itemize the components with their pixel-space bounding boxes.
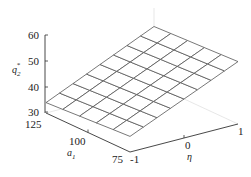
eta-axis-label: η [187, 151, 192, 162]
a1-axis-label: a1 [67, 147, 76, 161]
a1-tick-100: 100 [69, 135, 86, 147]
z-tick-30: 30 [28, 106, 40, 118]
z-tick-40: 40 [28, 81, 40, 93]
z-tick-60: 60 [28, 29, 40, 41]
a1-tick-75: 75 [112, 153, 124, 165]
surface-plot: 60 50 40 30 125 100 75 -1 0 1 q2* a1 η [0, 0, 251, 177]
eta-tick-neg1: -1 [130, 153, 139, 165]
eta-tick-1: 1 [238, 125, 244, 137]
z-axis-label: q2* [12, 61, 21, 78]
z-tick-50: 50 [28, 55, 40, 67]
surface-mesh [46, 27, 238, 137]
a1-tick-125: 125 [25, 118, 42, 130]
eta-tick-0: 0 [185, 139, 191, 151]
